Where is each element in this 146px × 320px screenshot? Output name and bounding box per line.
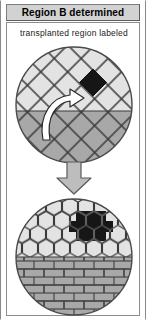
panel-caption: transplanted region labeled: [1, 28, 146, 38]
lower-dark-region: [14, 111, 134, 165]
hex-brick-disc-clip-group: [14, 197, 134, 317]
diamond-disc-svg: [14, 45, 134, 165]
donor-host-disc-diamond-grid: [14, 45, 134, 165]
brick-region: [14, 257, 134, 317]
down-arrow-svg: [55, 161, 93, 195]
panel-title: Region B determined: [22, 7, 124, 18]
panel-title-bar: Region B determined: [6, 4, 140, 21]
downward-step-arrow: [55, 161, 93, 195]
diamond-disc-clip-group: [14, 45, 134, 165]
region-b-panel: Region B determined transplanted region …: [0, 0, 146, 320]
down-arrow-shape: [57, 162, 91, 194]
result-disc-hex-brick: [14, 197, 134, 317]
hex-brick-disc-svg: [14, 197, 134, 317]
